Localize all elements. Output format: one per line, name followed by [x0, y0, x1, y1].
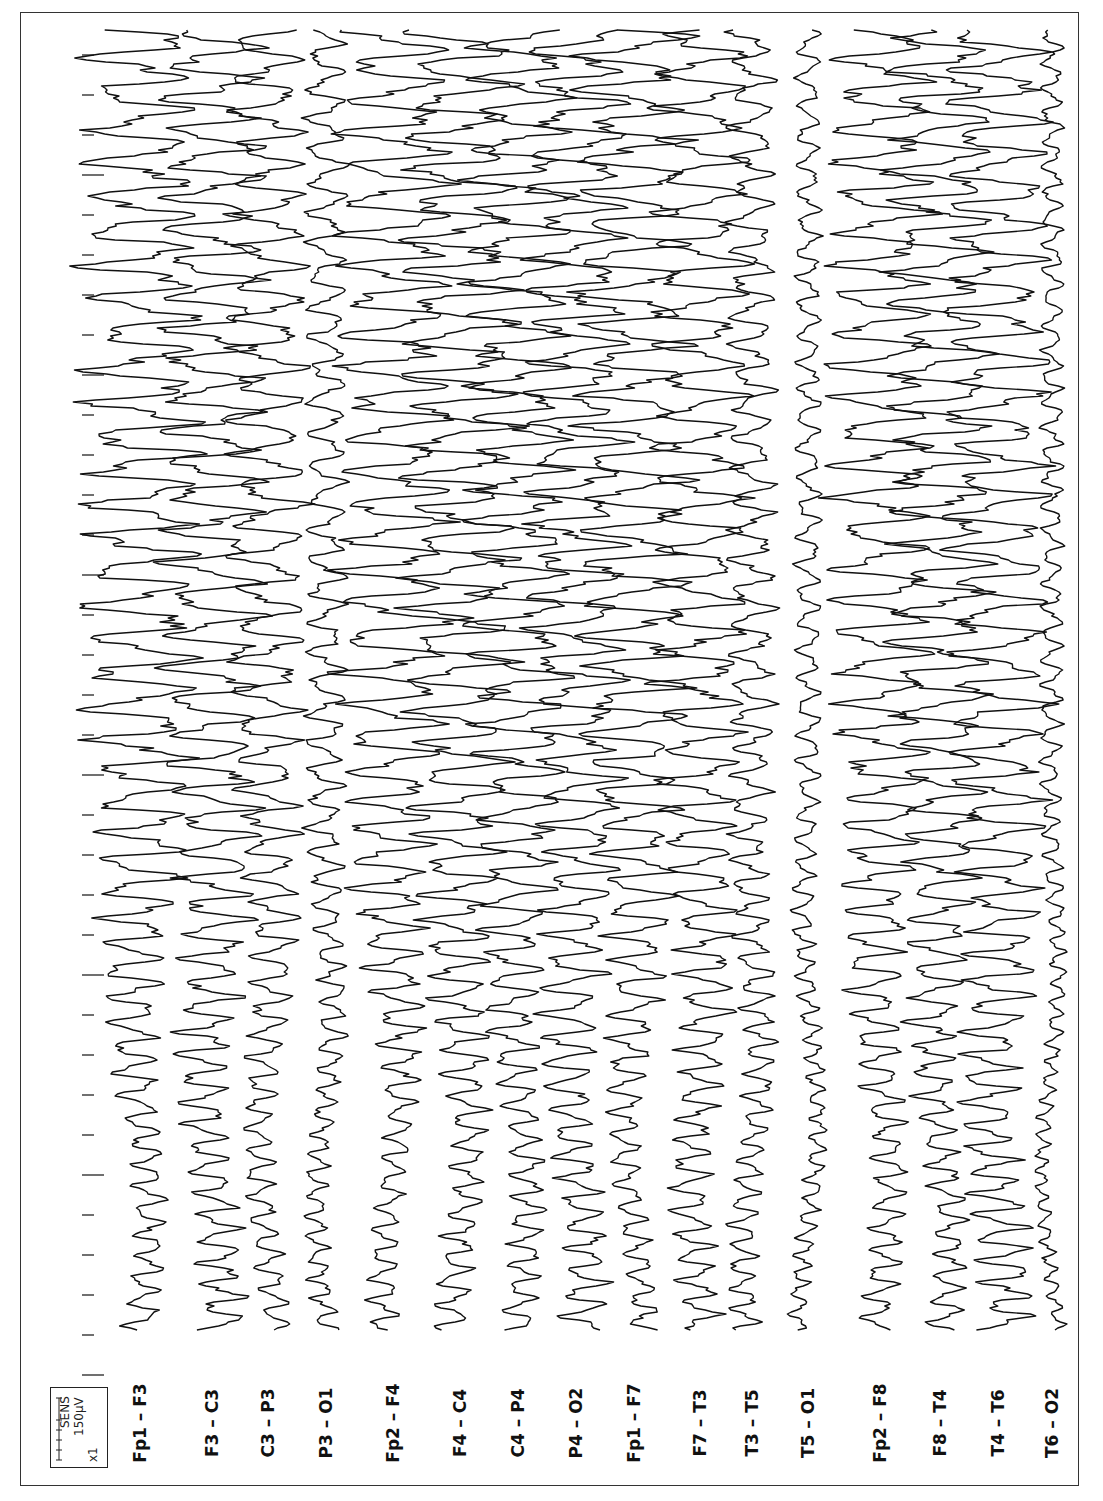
- time-axis-ticks: [82, 55, 104, 1375]
- eeg-trace: [940, 30, 1059, 1330]
- channel-label-t5-o1: T5 – O1: [797, 1378, 819, 1468]
- eeg-trace: [724, 30, 780, 1330]
- channel-label-t3-t5: T3 – T5: [741, 1378, 763, 1468]
- eeg-trace: [819, 30, 943, 1330]
- eeg-trace: [645, 30, 756, 1330]
- sens-title: SENS: [59, 1396, 71, 1428]
- channel-label-fp2-f4: Fp2 – F4: [382, 1378, 404, 1468]
- sens-value: 150μV: [73, 1397, 85, 1436]
- channel-label-f7-t3: F7 – T3: [689, 1378, 711, 1468]
- eeg-trace: [1035, 30, 1067, 1330]
- channel-label-f4-c4: F4 – C4: [449, 1378, 471, 1468]
- channel-label-c4-p4: C4 – P4: [507, 1378, 529, 1468]
- channel-label-t4-t6: T4 – T6: [987, 1378, 1009, 1468]
- channel-label-fp1-f3: Fp1 – F3: [129, 1378, 151, 1468]
- channel-label-f3-c3: F3 – C3: [201, 1378, 223, 1468]
- channel-label-c3-p3: C3 – P3: [257, 1378, 279, 1468]
- channel-label-p3-o1: P3 – O1: [315, 1378, 337, 1468]
- sensitivity-calibration-box: SENS 150μV x1: [50, 1387, 108, 1468]
- eeg-trace: [223, 30, 315, 1330]
- channel-label-t6-o2: T6 – O2: [1041, 1378, 1063, 1468]
- eeg-trace: [301, 30, 350, 1330]
- eeg-traces-plot: [0, 0, 1103, 1501]
- channel-label-fp1-f7: Fp1 – F7: [623, 1378, 645, 1468]
- channel-label-f8-t4: F8 – T4: [929, 1378, 951, 1468]
- channel-label-p4-o2: P4 – O2: [565, 1378, 587, 1468]
- eeg-trace: [787, 30, 827, 1330]
- eeg-trace: [153, 30, 272, 1330]
- eeg-channel-traces: [70, 30, 1067, 1330]
- sens-gain: x1: [87, 1447, 99, 1462]
- eeg-trace: [394, 30, 529, 1330]
- channel-label-fp2-f8: Fp2 – F8: [869, 1378, 891, 1468]
- eeg-trace: [327, 30, 461, 1330]
